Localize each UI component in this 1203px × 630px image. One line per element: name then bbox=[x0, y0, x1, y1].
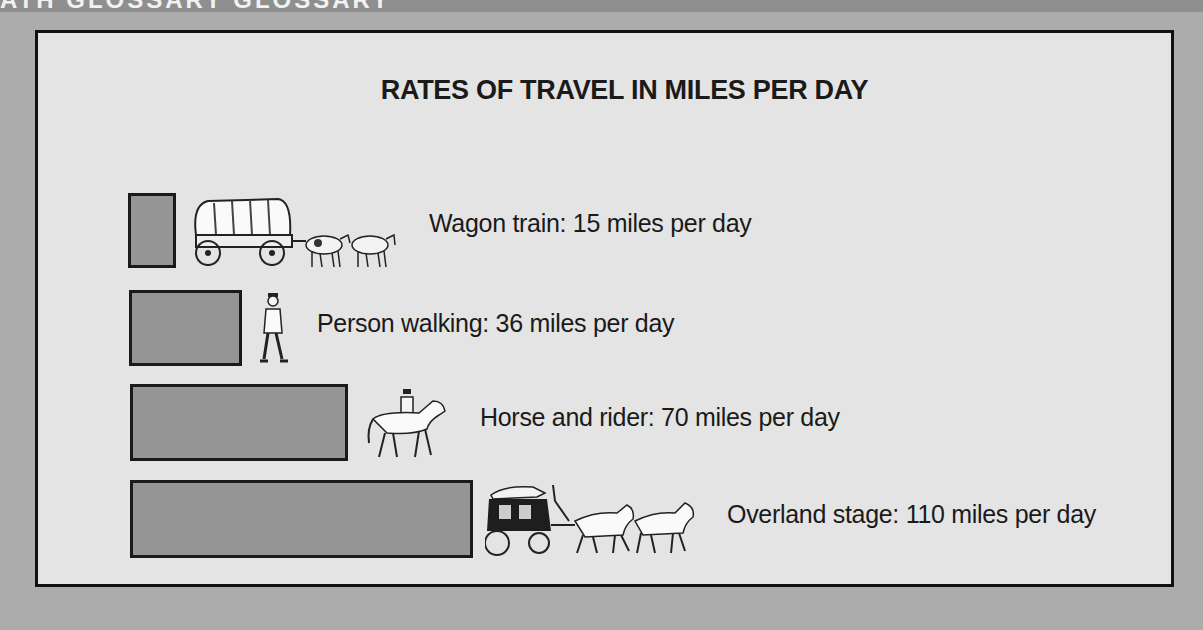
label-horse-and-rider: Horse and rider: 70 miles per day bbox=[480, 403, 840, 432]
horse-and-rider-icon bbox=[363, 385, 451, 461]
label-wagon-train: Wagon train: 15 miles per day bbox=[429, 209, 751, 238]
chart-title: RATES OF TRAVEL IN MILES PER DAY bbox=[38, 75, 1171, 106]
bar-horse-and-rider bbox=[130, 384, 348, 461]
label-person-walking: Person walking: 36 miles per day bbox=[317, 309, 674, 338]
top-banner: ATH GLOSSARY GLOSSARY bbox=[0, 0, 1203, 12]
covered-wagon-with-oxen-icon bbox=[188, 195, 398, 269]
banner-text: ATH GLOSSARY GLOSSARY bbox=[0, 0, 391, 12]
stagecoach-with-horses-icon bbox=[485, 481, 701, 557]
bar-person-walking bbox=[129, 290, 242, 366]
label-overland-stage: Overland stage: 110 miles per day bbox=[727, 500, 1096, 529]
bar-wagon-train bbox=[128, 193, 176, 268]
walking-person-icon bbox=[256, 289, 290, 367]
chart-panel: RATES OF TRAVEL IN MILES PER DAY Wagon t… bbox=[35, 30, 1174, 587]
bar-overland-stage bbox=[130, 480, 473, 558]
